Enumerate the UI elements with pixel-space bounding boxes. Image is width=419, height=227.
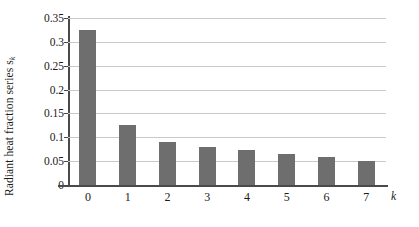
bar-chart-figure: Radiant heat fraction series sk 00.050.1…: [0, 0, 419, 227]
bar: [278, 154, 295, 185]
y-axis-title-text: Radiant heat fraction series s: [3, 60, 15, 196]
bar: [79, 30, 96, 185]
y-axis-tick-label: 0.2: [20, 84, 64, 96]
y-axis-tick-label: 0.35: [20, 12, 64, 24]
x-axis-tick-label: 0: [73, 190, 103, 205]
y-axis-tick-labels: 00.050.10.150.20.250.30.35: [16, 18, 64, 185]
gridline: [68, 113, 386, 114]
x-axis-tick-label: 6: [311, 190, 341, 205]
y-axis-title: Radiant heat fraction series sk: [3, 57, 17, 197]
x-axis-title: k: [391, 190, 396, 202]
gridline: [68, 161, 386, 162]
gridline: [68, 66, 386, 67]
x-axis-tick-label: 2: [152, 190, 182, 205]
plot-area: [68, 18, 386, 185]
y-axis-tick-label: 0.15: [20, 107, 64, 119]
x-axis-tick-label: 7: [351, 190, 381, 205]
gridline: [68, 42, 386, 43]
bar: [238, 150, 255, 185]
bar: [159, 142, 176, 185]
bar: [199, 147, 216, 185]
y-axis-tick-label: 0.25: [20, 60, 64, 72]
gridline: [68, 18, 386, 19]
gridline: [68, 137, 386, 138]
x-axis-tick-label: 3: [192, 190, 222, 205]
x-axis-tick-label: 1: [113, 190, 143, 205]
bar: [358, 161, 375, 185]
x-axis-tick-label: 5: [272, 190, 302, 205]
y-axis-tick-label: 0.1: [20, 131, 64, 143]
gridline: [68, 90, 386, 91]
bar: [318, 157, 335, 185]
gridline: [68, 185, 386, 186]
x-axis-tick-label: 4: [232, 190, 262, 205]
y-axis-tick-label: 0.3: [20, 36, 64, 48]
bar: [119, 125, 136, 185]
y-axis-tick-label: 0.05: [20, 155, 64, 167]
